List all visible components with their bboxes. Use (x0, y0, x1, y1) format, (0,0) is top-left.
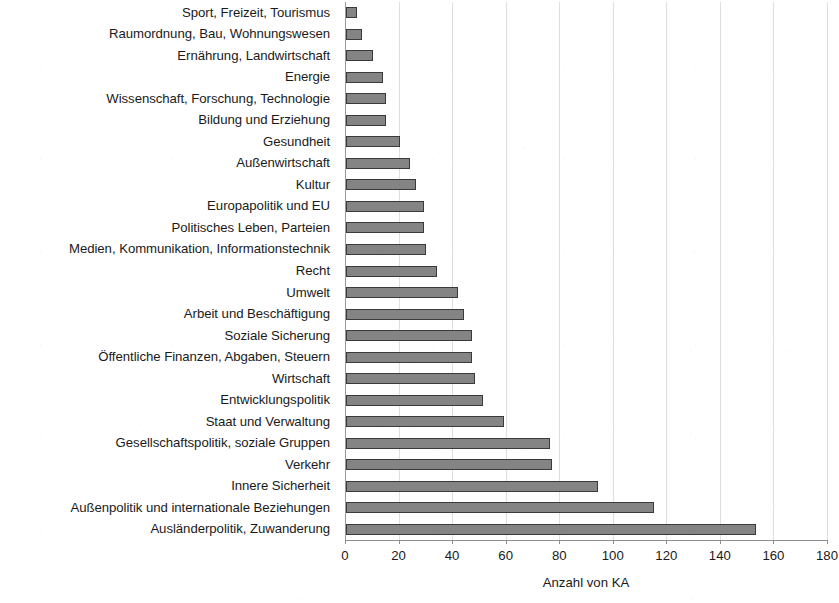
x-axis-tick (666, 540, 667, 544)
bar (346, 309, 464, 320)
category-label: Wirtschaft (0, 372, 330, 386)
category-label: Außenwirtschaft (0, 156, 330, 170)
bar (346, 395, 483, 406)
category-label: Ausländerpolitik, Zuwanderung (0, 522, 330, 536)
gridline (827, 2, 828, 540)
bar (346, 93, 386, 104)
x-axis-line (345, 540, 827, 541)
gridline (559, 2, 560, 540)
category-label: Umwelt (0, 286, 330, 300)
category-label: Wissenschaft, Forschung, Technologie (0, 92, 330, 106)
category-label: Ernährung, Landwirtschaft (0, 49, 330, 63)
category-label: Energie (0, 70, 330, 84)
category-label: Öffentliche Finanzen, Abgaben, Steuern (0, 350, 330, 364)
bar (346, 481, 598, 492)
x-axis-tick-label: 180 (805, 548, 839, 564)
x-axis-tick-label: 140 (698, 548, 742, 564)
category-label: Medien, Kommunikation, Informationstechn… (0, 242, 330, 256)
category-label: Gesellschaftspolitik, soziale Gruppen (0, 436, 330, 450)
gridline (613, 2, 614, 540)
category-label: Innere Sicherheit (0, 479, 330, 493)
category-label: Staat und Verwaltung (0, 415, 330, 429)
horizontal-bar-chart: Sport, Freizeit, TourismusRaumordnung, B… (0, 0, 839, 603)
category-label: Soziale Sicherung (0, 329, 330, 343)
bar (346, 416, 504, 427)
category-label: Bildung und Erziehung (0, 113, 330, 127)
bar (346, 136, 400, 147)
category-label: Arbeit und Beschäftigung (0, 307, 330, 321)
x-axis-title: Anzahl von KA (345, 575, 827, 591)
bar (346, 115, 386, 126)
category-label: Außenpolitik und internationale Beziehun… (0, 501, 330, 515)
category-label: Kultur (0, 178, 330, 192)
x-axis-tick-label: 40 (430, 548, 474, 564)
x-axis-tick (399, 540, 400, 544)
gridline (773, 2, 774, 540)
bar (346, 7, 357, 18)
x-axis-tick (827, 540, 828, 544)
x-axis-tick (613, 540, 614, 544)
bar (346, 29, 362, 40)
x-axis-tick-label: 0 (323, 548, 367, 564)
x-axis-tick (559, 540, 560, 544)
category-label-column: Sport, Freizeit, TourismusRaumordnung, B… (0, 0, 338, 545)
category-label: Raumordnung, Bau, Wohnungswesen (0, 27, 330, 41)
x-axis-tick-label: 160 (751, 548, 795, 564)
x-axis-tick-label: 120 (644, 548, 688, 564)
bar (346, 524, 756, 535)
bar (346, 266, 437, 277)
category-label: Sport, Freizeit, Tourismus (0, 6, 330, 20)
bar (346, 158, 410, 169)
plot-area (345, 2, 827, 540)
bar (346, 201, 424, 212)
x-axis-tick (720, 540, 721, 544)
bar (346, 222, 424, 233)
bar (346, 287, 458, 298)
x-axis-tick (345, 540, 346, 544)
bar (346, 179, 416, 190)
gridline (666, 2, 667, 540)
bar (346, 330, 472, 341)
x-axis-tick (506, 540, 507, 544)
gridline (720, 2, 721, 540)
bar (346, 373, 475, 384)
category-label: Entwicklungspolitik (0, 393, 330, 407)
bar (346, 502, 654, 513)
x-axis-tick-label: 100 (591, 548, 635, 564)
x-axis-tick (773, 540, 774, 544)
category-label: Europapolitik und EU (0, 199, 330, 213)
category-label: Gesundheit (0, 135, 330, 149)
x-axis-tick (452, 540, 453, 544)
bar (346, 459, 552, 470)
category-label: Recht (0, 264, 330, 278)
bar (346, 244, 426, 255)
x-axis-tick-label: 60 (484, 548, 528, 564)
bar (346, 438, 550, 449)
x-axis-tick-label: 80 (537, 548, 581, 564)
bar (346, 50, 373, 61)
x-axis-tick-label: 20 (377, 548, 421, 564)
bar (346, 352, 472, 363)
category-label: Verkehr (0, 458, 330, 472)
category-label: Politisches Leben, Parteien (0, 221, 330, 235)
bar (346, 72, 383, 83)
x-axis-tick-labels: 020406080100120140160180 (345, 548, 827, 566)
